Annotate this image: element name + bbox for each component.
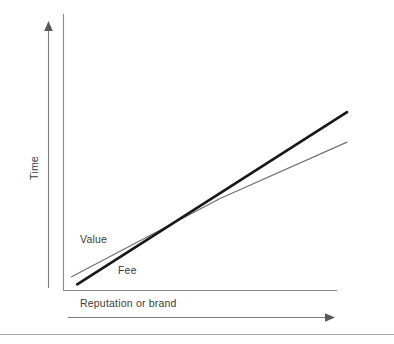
y-axis-direction-arrow [44, 21, 53, 288]
qualitative-line-chart: Time Reputation or brand Value Fee [0, 0, 394, 344]
plot-axes [64, 14, 338, 291]
x-axis-direction-arrow [68, 313, 335, 322]
series-label-value: Value [80, 233, 107, 245]
x-axis-title: Reputation or brand [80, 297, 177, 309]
series-label-fee: Fee [118, 264, 137, 276]
series-line-value [72, 142, 347, 277]
y-axis-title: Time [28, 156, 40, 180]
series-line-fee [77, 112, 347, 284]
figure-container: Time Reputation or brand Value Fee [0, 0, 394, 344]
